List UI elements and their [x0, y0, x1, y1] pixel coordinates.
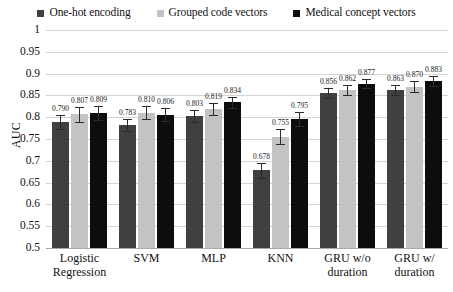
bar-slot: 0.810: [138, 30, 155, 248]
error-bar: [328, 88, 329, 98]
bar-value-label: 0.819: [205, 93, 222, 101]
legend-item-label: Medical concept vectors: [305, 7, 415, 19]
error-bar: [79, 107, 80, 122]
bar-slot: 0.870: [406, 30, 423, 248]
bar-value-label: 0.810: [138, 96, 155, 104]
auc-bar-chart: One-hot encodingGrouped code vectorsMedi…: [0, 0, 453, 292]
bar: [90, 113, 107, 248]
bar-group: 0.7830.8100.806: [113, 30, 180, 248]
legend-swatch-icon: [157, 10, 164, 17]
bar: [387, 90, 404, 248]
error-bar-cap: [123, 119, 132, 120]
error-bar: [261, 163, 262, 179]
legend-swatch-icon: [37, 10, 44, 17]
error-bar-cap: [209, 115, 218, 116]
bar-group-bars: 0.6780.7550.795: [247, 30, 314, 248]
bar: [71, 114, 88, 248]
y-axis-tick-label: 0.95: [20, 46, 40, 58]
error-bar-cap: [410, 81, 419, 82]
bar-slot: 0.819: [205, 30, 222, 248]
error-bar-cap: [56, 115, 65, 116]
error-bar: [347, 85, 348, 95]
bar-slot: 0.678: [253, 30, 270, 248]
error-bar: [366, 79, 367, 89]
bar-slot: 0.834: [224, 30, 241, 248]
bar: [425, 81, 442, 248]
x-axis-category-label: Logistic Regression: [46, 251, 113, 291]
bar-value-label: 0.856: [320, 78, 337, 86]
error-bar-cap: [75, 122, 84, 123]
y-axis-tick-labels: 10.950.90.850.80.750.70.650.60.550.5: [0, 30, 44, 248]
y-axis-tick-label: 0.5: [26, 242, 40, 254]
bar-group: 0.6780.7550.795: [247, 30, 314, 248]
error-bar: [165, 108, 166, 120]
bar: [186, 116, 203, 248]
x-axis-category-label: SVM: [113, 251, 180, 291]
bar-value-label: 0.790: [52, 105, 69, 113]
bar-slot: 0.806: [157, 30, 174, 248]
error-bar-cap: [94, 106, 103, 107]
legend-item: Grouped code vectors: [157, 7, 268, 19]
y-axis-tick-label: 0.9: [26, 68, 40, 80]
error-bar-cap: [123, 131, 132, 132]
error-bar-cap: [228, 108, 237, 109]
error-bar-cap: [161, 108, 170, 109]
bar-slot: 0.807: [71, 30, 88, 248]
bar-slot: 0.856: [320, 30, 337, 248]
y-axis-tick-label: 1: [34, 24, 40, 36]
legend-item: One-hot encoding: [37, 7, 130, 19]
error-bar-cap: [343, 95, 352, 96]
error-bar-cap: [276, 144, 285, 145]
bar-group-bars: 0.8030.8190.834: [180, 30, 247, 248]
error-bar-cap: [295, 126, 304, 127]
bar-group: 0.8560.8620.877: [314, 30, 381, 248]
y-axis-tick-label: 0.85: [20, 90, 40, 102]
bar: [358, 84, 375, 248]
error-bar-cap: [362, 79, 371, 80]
legend-item: Medical concept vectors: [293, 7, 415, 19]
error-bar-cap: [228, 97, 237, 98]
bar-groups: 0.7900.8070.8090.7830.8100.8060.8030.819…: [46, 30, 448, 248]
legend-item-label: Grouped code vectors: [169, 7, 268, 19]
bar: [224, 102, 241, 248]
bar-group-bars: 0.7900.8070.809: [46, 30, 113, 248]
error-bar: [146, 106, 147, 119]
bar-value-label: 0.807: [71, 97, 88, 105]
x-axis-category-label: GRU w/ duration: [381, 251, 448, 291]
bar-slot: 0.783: [119, 30, 136, 248]
error-bar: [395, 85, 396, 95]
bar-group: 0.8630.8700.883: [381, 30, 448, 248]
error-bar: [213, 103, 214, 115]
error-bar-cap: [161, 121, 170, 122]
bar-group: 0.8030.8190.834: [180, 30, 247, 248]
error-bar-cap: [324, 88, 333, 89]
bar-slot: 0.877: [358, 30, 375, 248]
bar: [205, 109, 222, 248]
y-axis-tick-label: 0.8: [26, 111, 40, 123]
error-bar-cap: [257, 163, 266, 164]
bar-value-label: 0.883: [425, 66, 442, 74]
bar-value-label: 0.809: [90, 96, 107, 104]
bar: [119, 125, 136, 248]
bar: [272, 137, 289, 248]
error-bar: [433, 76, 434, 86]
bar-value-label: 0.870: [406, 71, 423, 79]
error-bar: [194, 110, 195, 121]
error-bar: [127, 119, 128, 131]
error-bar-cap: [190, 122, 199, 123]
y-axis-tick-label: 0.55: [20, 220, 40, 232]
error-bar-cap: [209, 103, 218, 104]
error-bar-cap: [429, 86, 438, 87]
legend-item-label: One-hot encoding: [49, 7, 130, 19]
bar-slot: 0.809: [90, 30, 107, 248]
bar-value-label: 0.755: [272, 119, 289, 127]
bar-value-label: 0.863: [387, 75, 404, 83]
x-axis-category-label: GRU w/o duration: [314, 251, 381, 291]
error-bar-cap: [324, 98, 333, 99]
bar-slot: 0.862: [339, 30, 356, 248]
error-bar-cap: [94, 120, 103, 121]
error-bar: [299, 112, 300, 126]
bar-value-label: 0.806: [157, 98, 174, 106]
bar-value-label: 0.795: [291, 102, 308, 110]
error-bar-cap: [142, 106, 151, 107]
